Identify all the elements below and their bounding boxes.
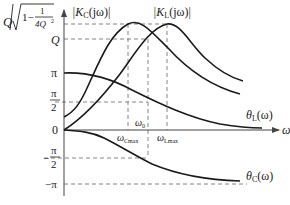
theta-c-label: θC(ω) — [246, 169, 273, 184]
kc-label: |KC(jω)| — [72, 5, 110, 20]
theta-l-label: θL(ω) — [246, 108, 273, 123]
kc-magnitude-curve — [64, 22, 240, 117]
frac-den: 4Q — [35, 19, 47, 29]
neg-pi-half-num: π — [51, 144, 57, 156]
pi-label: π — [51, 66, 57, 80]
frac-den-exp: 2 — [51, 18, 54, 24]
neg-sign: − — [43, 152, 49, 164]
frac-num: 1 — [40, 6, 45, 16]
q-label: Q — [51, 33, 60, 47]
theta-c-curve — [64, 130, 240, 181]
y-axis-labels: Q 1− 1 4Q 2 Q π π 2 0 − π 2 −π — [3, 4, 60, 190]
curve-labels: |KC(jω)| |KL(jω)| θL(ω) θC(ω) ω — [72, 5, 290, 184]
omega-axis-label: ω — [282, 123, 290, 137]
pi-half-den: 2 — [51, 101, 57, 113]
kl-magnitude-curve — [64, 24, 243, 130]
neg-pi-half-den: 2 — [51, 158, 57, 170]
neg-pi-label: −π — [45, 178, 57, 190]
omega-cmax-label: ωCmax — [117, 132, 138, 144]
theta-l-curve — [64, 73, 262, 128]
omega-lmax-label: ωLmax — [157, 132, 178, 144]
resonance-frequency-diagram: Q 1− 1 4Q 2 Q π π 2 0 − π 2 −π |KC(jω)| … — [0, 0, 290, 205]
pi-half-num: π — [51, 87, 57, 99]
kl-label: |KL(jω)| — [153, 5, 191, 20]
one-minus: 1− — [22, 11, 34, 23]
zero-label: 0 — [52, 123, 58, 137]
omega-0-label: ω0 — [135, 117, 145, 129]
